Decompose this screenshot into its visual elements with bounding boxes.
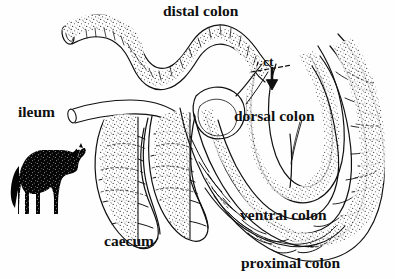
label-dorsal-colon: dorsal colon (234, 108, 315, 124)
label-ct: ct (263, 55, 274, 69)
pelvic-flexure-structure (193, 64, 268, 139)
label-ventral-colon: ventral colon (240, 207, 327, 223)
distal-colon-structure (55, 14, 280, 94)
anatomy-figure: distal colon ileum ct dorsal colon ventr… (0, 0, 395, 279)
proximal-colon-structure (180, 34, 392, 264)
intestine-line-art (0, 0, 395, 279)
caecum-structure (92, 110, 208, 252)
label-proximal-colon: proximal colon (241, 255, 340, 271)
label-ileum: ileum (18, 104, 55, 120)
label-distal-colon: distal colon (163, 3, 238, 19)
label-caecum: caecum (104, 233, 154, 249)
horse-silhouette-icon (11, 143, 86, 214)
